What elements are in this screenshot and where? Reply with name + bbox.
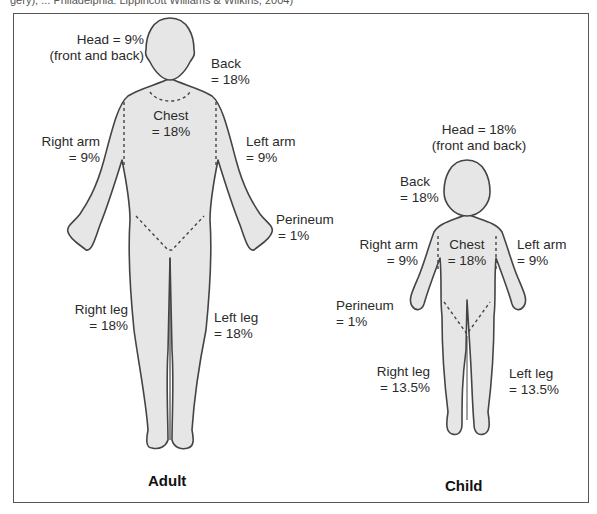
child-head bbox=[444, 160, 490, 216]
adult-right-leg-label: Right leg = 18% bbox=[56, 302, 128, 334]
adult-left-leg-label: Left leg = 18% bbox=[214, 310, 258, 342]
adult-perineum-label: Perineum = 1% bbox=[276, 212, 334, 244]
adult-back-label: Back = 18% bbox=[211, 56, 250, 88]
child-back-label: Back = 18% bbox=[400, 174, 439, 206]
child-chest-label: Chest = 18% bbox=[444, 237, 490, 269]
adult-head-label: Head = 9% (front and back) bbox=[28, 32, 144, 64]
adult-title: Adult bbox=[148, 472, 186, 489]
child-left-leg-label: Left leg = 13.5% bbox=[509, 366, 559, 398]
child-right-leg-label: Right leg = 13.5% bbox=[362, 364, 430, 396]
body-figures bbox=[0, 0, 597, 514]
child-head-label: Head = 18% (front and back) bbox=[416, 122, 542, 154]
adult-right-arm-label: Right arm = 9% bbox=[28, 134, 100, 166]
child-perineum-label: Perineum = 1% bbox=[336, 298, 394, 330]
adult-left-arm-label: Left arm = 9% bbox=[246, 134, 296, 166]
child-title: Child bbox=[445, 477, 483, 494]
child-left-arm-label: Left arm = 9% bbox=[517, 237, 567, 269]
adult-head bbox=[145, 18, 194, 80]
child-right-arm-label: Right arm = 9% bbox=[346, 237, 418, 269]
adult-chest-label: Chest = 18% bbox=[146, 108, 196, 140]
